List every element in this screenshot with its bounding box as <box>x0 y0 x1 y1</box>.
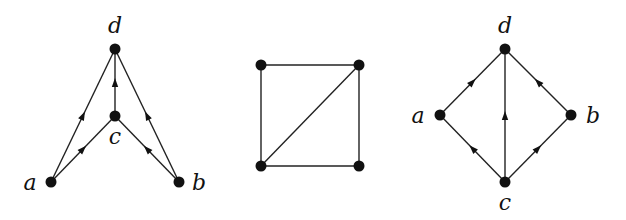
directed-graph-left: dcab <box>23 13 206 195</box>
arrowhead-icon <box>502 111 508 120</box>
vertex-a <box>46 177 57 188</box>
diagram-canvas: dcab dabc <box>0 0 626 220</box>
vertex-tr <box>354 60 365 71</box>
edge-bl-tr <box>261 65 359 166</box>
vertex-label: c <box>109 124 121 149</box>
directed-graph-diamond: dabc <box>411 13 600 215</box>
vertex-c <box>110 111 121 122</box>
vertex-a <box>435 110 446 121</box>
undirected-graph-square <box>256 60 365 172</box>
vertex-bl <box>256 161 267 172</box>
vertex-label: b <box>192 170 206 195</box>
vertex-b <box>174 177 185 188</box>
vertex-label: a <box>23 170 36 195</box>
vertex-d <box>110 44 121 55</box>
vertex-tl <box>256 60 267 71</box>
vertex-b <box>566 110 577 121</box>
vertex-label: d <box>498 13 512 38</box>
vertex-d <box>500 44 511 55</box>
vertex-c <box>500 177 511 188</box>
vertex-label: d <box>108 13 122 38</box>
arrowhead-icon <box>145 111 152 120</box>
vertex-br <box>354 161 365 172</box>
arrowhead-icon <box>112 78 118 87</box>
vertex-label: a <box>411 103 424 128</box>
vertex-label: c <box>499 190 511 215</box>
vertex-label: b <box>586 103 600 128</box>
arrowhead-icon <box>78 111 85 120</box>
